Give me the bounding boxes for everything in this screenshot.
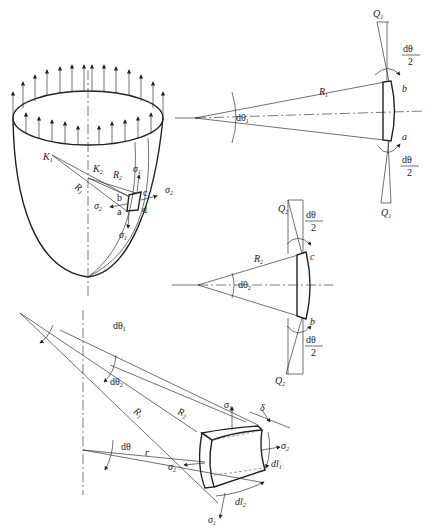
label-R2-circumferential: R2 <box>253 253 263 265</box>
label-half-dtheta2-bottom: dθ 2 <box>401 154 419 178</box>
label-Q1-top: Q1 <box>373 8 383 20</box>
svg-text:dθ: dθ <box>402 154 412 165</box>
label-d: d <box>142 204 147 215</box>
meridional-element <box>383 81 395 141</box>
svg-text:dθ: dθ <box>306 334 316 345</box>
element-front-edges <box>214 430 265 487</box>
label-delta: δ <box>260 402 265 413</box>
svg-text:2: 2 <box>407 167 412 178</box>
label-sigma1-bottom: σ1 <box>119 229 127 241</box>
element-3d-view: dθ1 dθ2 dθ r R2 R1 σ1 σ1 σ2 σ2 δ dl1 dl2 <box>20 310 290 526</box>
shell-rim <box>13 91 163 145</box>
shell-view: K1 K2 R2 R1 σ1 σ1 σ2 σ2 b a c d <box>13 65 173 296</box>
label-dtheta: dθ <box>121 441 131 452</box>
element-left-face <box>200 433 214 488</box>
label-sigma2-right: σ2 <box>165 184 173 196</box>
label-dtheta1-3d: dθ1 <box>113 320 126 332</box>
circumferential-element <box>297 252 310 319</box>
label-R1: R1 <box>71 180 86 196</box>
shell-stress-diagram: K1 K2 R2 R1 σ1 σ1 σ2 σ2 b a c d R1 dθ1 Q… <box>0 0 435 530</box>
label-sigma2-left: σ2 <box>94 200 102 212</box>
label-b-circumferential: b <box>310 316 315 327</box>
label-dtheta1: dθ1 <box>236 112 249 124</box>
svg-text:2: 2 <box>408 56 413 67</box>
svg-text:2: 2 <box>311 347 316 358</box>
label-a: a <box>117 206 122 217</box>
label-Q1-bottom: Q1 <box>381 207 391 219</box>
label-Q2-bottom: Q2 <box>275 375 285 387</box>
label-b: b <box>117 192 122 203</box>
label-sigma2-left-3d: σ2 <box>168 461 176 473</box>
label-R1-meridional: R1 <box>318 86 328 98</box>
label-dtheta2-3d: dθ2 <box>110 376 123 388</box>
label-dl1: dl1 <box>271 458 282 470</box>
label-b-meridional: b <box>402 83 407 94</box>
svg-text:2: 2 <box>311 222 316 233</box>
label-dl2: dl2 <box>235 496 246 508</box>
label-R2: R2 <box>112 169 122 181</box>
label-a-meridional: a <box>402 131 407 142</box>
label-sigma2-right-3d: σ2 <box>281 440 289 452</box>
svg-text:dθ: dθ <box>306 209 316 220</box>
label-K2: K2 <box>92 163 103 175</box>
label-sigma1-top: σ1 <box>133 163 141 175</box>
label-c-circumferential: c <box>310 251 315 262</box>
label-half-dtheta2-upper: dθ 2 <box>305 209 323 233</box>
label-dtheta2: dθ2 <box>238 279 251 291</box>
label-r: r <box>145 447 149 458</box>
label-Q2-top: Q2 <box>278 203 288 215</box>
meridional-section-view: R1 dθ1 Q1 Q1 b a dθ 2 dθ 2 <box>175 8 425 219</box>
label-K1: K1 <box>42 151 53 163</box>
label-half-dtheta2-lower: dθ 2 <box>305 334 323 358</box>
label-R2-3d: R2 <box>175 405 189 420</box>
label-half-dtheta2-top: dθ 2 <box>402 43 420 67</box>
svg-text:dθ: dθ <box>403 43 413 54</box>
label-sigma1-bottom-3d: σ1 <box>208 514 216 526</box>
label-R1-3d: R1 <box>130 404 145 420</box>
label-c: c <box>143 187 148 198</box>
label-sigma1-top-3d: σ1 <box>224 399 232 411</box>
circumferential-section-view: R2 dθ2 Q2 Q2 c b dθ 2 dθ 2 <box>172 200 333 387</box>
surface-element-abcd <box>127 192 141 211</box>
